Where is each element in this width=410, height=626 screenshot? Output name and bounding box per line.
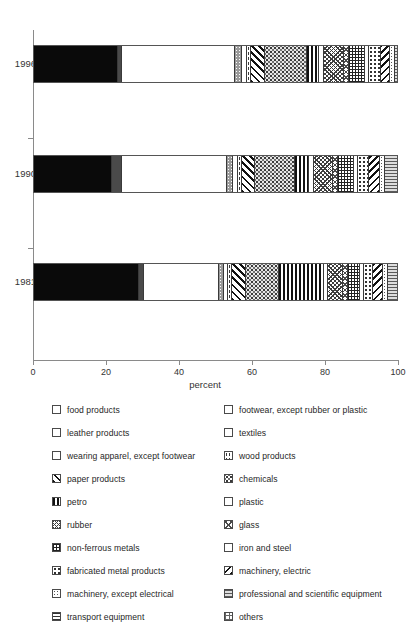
bar-segment-fabmetal	[358, 156, 369, 192]
nonferrous-swatch-icon	[52, 543, 61, 552]
bar-segment-prof	[385, 156, 398, 192]
legend-label: wood products	[239, 451, 296, 461]
legend-label: footwear, except rubber or plastic	[239, 405, 367, 415]
legend-item-petro[interactable]: petro	[52, 497, 224, 507]
glass-swatch-icon	[224, 520, 233, 529]
x-tick-label: 60	[247, 367, 257, 377]
legend-label: rubber	[67, 520, 92, 530]
bar-segment-apparel	[144, 264, 219, 300]
x-tick-label: 100	[390, 367, 405, 377]
bar-segment-machelec	[369, 156, 380, 192]
plot-area: 199619901981 020406080100 percent	[0, 0, 410, 400]
bar-segment-machelec	[373, 264, 383, 300]
y-tick	[28, 138, 34, 139]
legend-label: machinery, electric	[239, 566, 311, 576]
bar-1990	[33, 155, 398, 193]
legend-label: transport equipment	[67, 612, 144, 622]
legend-label: paper products	[67, 474, 125, 484]
leather-swatch-icon	[52, 428, 61, 437]
legend-item-apparel[interactable]: wearing apparel, except footwear	[52, 451, 224, 461]
legend-item-prof[interactable]: professional and scientific equipment	[224, 589, 396, 599]
x-tick-label: 80	[320, 367, 330, 377]
bar-segment-paper	[251, 46, 264, 82]
legend-label: wearing apparel, except footwear	[67, 451, 195, 461]
legend-label: leather products	[67, 428, 129, 438]
legend-item-machelec[interactable]: machinery, electric	[224, 566, 396, 576]
legend-item-machnonelec[interactable]: machinery, except electrical	[52, 589, 224, 599]
bar-segment-food	[34, 156, 112, 192]
bar-segment-prof	[388, 264, 398, 300]
legend-label: others	[239, 612, 263, 622]
x-tick	[398, 360, 399, 365]
bar-segment-leather	[112, 156, 121, 192]
legend-item-glass[interactable]: glass	[224, 520, 396, 530]
x-tick	[106, 360, 107, 365]
legend-item-textiles[interactable]: textiles	[224, 428, 396, 438]
legend-item-fabmetal[interactable]: fabricated metal products	[52, 566, 224, 576]
wood-swatch-icon	[224, 451, 233, 460]
y-tick	[28, 248, 34, 249]
bar-segment-apparel	[122, 156, 227, 192]
others-swatch-icon	[224, 612, 233, 621]
legend-label: glass	[239, 520, 259, 530]
bar-segment-machelec	[381, 46, 390, 82]
ironsteel-swatch-icon	[224, 543, 233, 552]
legend-item-plastic[interactable]: plastic	[224, 497, 396, 507]
bar-segment-prof	[395, 46, 398, 82]
legend-label: iron and steel	[239, 543, 291, 553]
legend: food productsfootwear, except rubber or …	[52, 398, 392, 626]
x-axis-title: percent	[0, 379, 410, 390]
legend-item-leather[interactable]: leather products	[52, 428, 224, 438]
bar-segment-fabmetal	[369, 46, 381, 82]
x-tick-label: 0	[30, 367, 35, 377]
petro-swatch-icon	[52, 497, 61, 506]
legend-item-wood[interactable]: wood products	[224, 451, 396, 461]
bar-segment-nonferrous	[348, 264, 360, 300]
bar-segment-rubber	[328, 264, 343, 300]
legend-item-paper[interactable]: paper products	[52, 474, 224, 484]
legend-label: professional and scientific equipment	[239, 589, 382, 599]
rubber-swatch-icon	[52, 520, 61, 529]
machnonelec-swatch-icon	[52, 589, 61, 598]
paper-swatch-icon	[52, 474, 61, 483]
plastic-swatch-icon	[224, 497, 233, 506]
bar-segment-chemicals	[265, 46, 307, 82]
legend-label: food products	[67, 405, 120, 415]
x-axis-line	[33, 360, 398, 361]
legend-label: fabricated metal products	[67, 566, 165, 576]
prof-swatch-icon	[224, 589, 233, 598]
legend-item-rubber[interactable]: rubber	[52, 520, 224, 530]
legend-item-others[interactable]: others	[224, 612, 396, 622]
legend-item-food[interactable]: food products	[52, 405, 224, 415]
fabmetal-swatch-icon	[52, 566, 61, 575]
bar-segment-petro	[295, 156, 309, 192]
bar-segment-apparel	[122, 46, 236, 82]
bar-segment-petro	[307, 46, 319, 82]
bar-segment-rubber	[324, 46, 344, 82]
bar-segment-nonferrous	[338, 156, 354, 192]
x-tick	[325, 360, 326, 365]
bar-segment-rubber	[314, 156, 333, 192]
textiles-swatch-icon	[224, 428, 233, 437]
x-tick-label: 40	[174, 367, 184, 377]
legend-item-nonferrous[interactable]: non-ferrous metals	[52, 543, 224, 553]
x-tick-label: 20	[101, 367, 111, 377]
legend-item-ironsteel[interactable]: iron and steel	[224, 543, 396, 553]
x-tick	[179, 360, 180, 365]
bar-segment-fabmetal	[364, 264, 373, 300]
apparel-swatch-icon	[52, 451, 61, 460]
legend-item-transport[interactable]: transport equipment	[52, 612, 224, 622]
bar-1996	[33, 45, 398, 83]
footwear-swatch-icon	[224, 405, 233, 414]
bar-segment-food	[34, 264, 139, 300]
bar-segment-paper	[242, 156, 255, 192]
legend-label: petro	[67, 497, 87, 507]
bar-segment-nonferrous	[349, 46, 365, 82]
bar-segment-paper	[232, 264, 246, 300]
machelec-swatch-icon	[224, 566, 233, 575]
legend-item-footwear[interactable]: footwear, except rubber or plastic	[224, 405, 396, 415]
bar-segment-footwear	[235, 46, 242, 82]
legend-item-chemicals[interactable]: chemicals	[224, 474, 396, 484]
bar-segment-chemicals	[246, 264, 279, 300]
